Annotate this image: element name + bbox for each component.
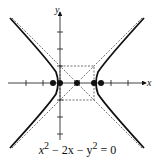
focus-right	[98, 80, 104, 86]
y-axis-label: y	[54, 4, 60, 15]
equation-label: x2 − 2x − y2 = 0	[0, 140, 155, 158]
focus-left	[50, 80, 56, 86]
key-points	[50, 80, 104, 86]
vertex-left	[57, 80, 63, 86]
center-point	[74, 80, 80, 86]
x-axis-label: x	[146, 77, 152, 88]
vertex-right	[91, 80, 97, 86]
